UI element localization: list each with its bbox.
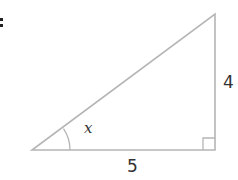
angle-label: x — [84, 121, 92, 136]
horizontal-side-label: 5 — [127, 158, 138, 175]
angle-arc — [64, 129, 71, 150]
right-angle-marker — [203, 138, 215, 150]
triangle-figure — [0, 0, 238, 180]
triangle — [32, 14, 215, 150]
vertical-side-label: 4 — [223, 74, 234, 91]
